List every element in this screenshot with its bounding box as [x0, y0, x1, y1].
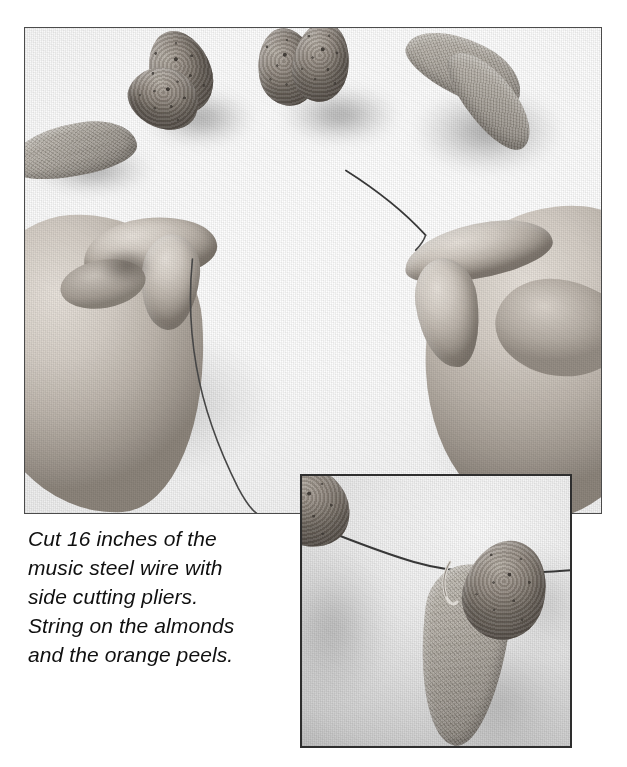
caption-line: Cut 16 inches of the	[28, 524, 296, 553]
caption-line: music steel wire with	[28, 553, 296, 582]
caption-text: Cut 16 inches of the music steel wire wi…	[28, 524, 296, 669]
caption-line: String on the almonds	[28, 611, 296, 640]
inset-photo	[300, 474, 572, 748]
inset-photo-scene	[302, 476, 570, 746]
main-photo	[24, 27, 602, 514]
page-root: Cut 16 inches of the music steel wire wi…	[0, 0, 627, 767]
caption-line: and the orange peels.	[28, 640, 296, 669]
caption-line: side cutting pliers.	[28, 582, 296, 611]
steel-wire	[25, 28, 601, 513]
main-photo-scene	[25, 28, 601, 513]
